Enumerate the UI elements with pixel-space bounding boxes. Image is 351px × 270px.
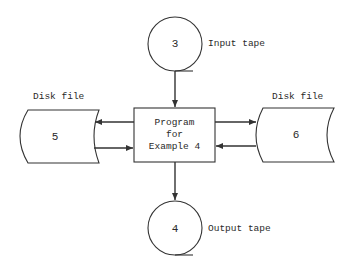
program-box-text: Program for Example 4 bbox=[134, 108, 215, 162]
disk-left-symbol bbox=[20, 110, 99, 163]
input-tape-label: Input tape bbox=[208, 39, 265, 49]
program-line-1: Program bbox=[155, 117, 195, 129]
disk-right-label: Disk file bbox=[272, 92, 323, 102]
input-tape-number: 3 bbox=[172, 39, 179, 50]
output-tape-label: Output tape bbox=[208, 224, 271, 234]
disk-left-label: Disk file bbox=[33, 92, 84, 102]
disk-right-number: 6 bbox=[293, 130, 300, 141]
disk-left-number: 5 bbox=[52, 132, 59, 143]
program-line-3: Example 4 bbox=[149, 141, 200, 153]
program-line-2: for bbox=[166, 129, 183, 141]
output-tape-number: 4 bbox=[172, 224, 179, 235]
